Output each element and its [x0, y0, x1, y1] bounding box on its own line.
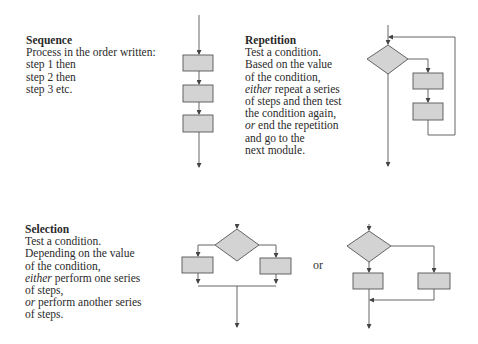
process-box — [413, 103, 443, 120]
decision-diamond — [215, 229, 259, 261]
decision-diamond — [347, 231, 391, 262]
process-box — [260, 258, 291, 274]
sequence-flowchart — [183, 15, 213, 167]
process-box — [353, 273, 383, 289]
process-box — [182, 257, 213, 273]
process-box — [183, 85, 213, 102]
selection-flowchart-a — [182, 224, 291, 327]
process-box — [183, 55, 213, 71]
repetition-flowchart — [367, 25, 455, 166]
process-box — [413, 73, 443, 89]
decision-diamond — [367, 45, 408, 74]
selection-flowchart-b — [347, 224, 450, 328]
process-box — [183, 115, 213, 132]
process-box — [418, 273, 450, 289]
flowcharts — [0, 0, 478, 344]
